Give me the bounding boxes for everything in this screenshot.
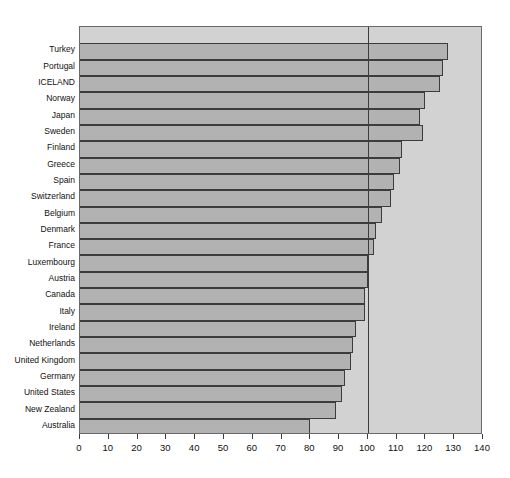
category-label: Switzerland <box>31 192 75 201</box>
x-tick-label: 90 <box>333 443 344 453</box>
category-label: Canada <box>45 290 75 299</box>
category-label: United Kingdom <box>15 356 75 365</box>
x-axis-ticks <box>0 434 510 442</box>
category-label: New Zealand <box>25 405 75 414</box>
axis-tick <box>108 434 109 439</box>
x-tick-label: 110 <box>388 443 403 453</box>
axis-tick <box>309 434 310 439</box>
x-axis-tick-labels: 0102030405060708090100110120130140 <box>0 443 510 459</box>
category-label: Australia <box>42 421 75 430</box>
category-label: Japan <box>52 111 75 120</box>
x-tick-label: 60 <box>246 443 257 453</box>
x-tick-label: 120 <box>416 443 432 453</box>
category-label: Italy <box>59 307 75 316</box>
axis-tick <box>165 434 166 439</box>
category-label: Germany <box>40 372 75 381</box>
category-label: Luxembourg <box>28 258 75 267</box>
bar-chart: TurkeyPortugalICELANDNorwayJapanSwedenFi… <box>0 0 510 478</box>
axis-tick <box>194 434 195 439</box>
x-tick-label: 70 <box>275 443 286 453</box>
axis-tick <box>424 434 425 439</box>
category-label: Spain <box>53 176 75 185</box>
x-tick-label: 0 <box>76 443 81 453</box>
x-tick-label: 140 <box>474 443 490 453</box>
category-label: Austria <box>49 274 75 283</box>
x-tick-label: 100 <box>359 443 375 453</box>
category-label: France <box>49 241 75 250</box>
category-label: Sweden <box>44 127 75 136</box>
category-label: Belgium <box>44 209 75 218</box>
x-tick-label: 30 <box>160 443 171 453</box>
axis-tick <box>338 434 339 439</box>
category-axis-labels: TurkeyPortugalICELANDNorwayJapanSwedenFi… <box>0 26 510 434</box>
category-label: Turkey <box>49 45 75 54</box>
axis-tick <box>396 434 397 439</box>
category-label: Ireland <box>49 323 75 332</box>
category-label: Finland <box>47 143 75 152</box>
axis-tick <box>453 434 454 439</box>
axis-tick <box>281 434 282 439</box>
category-label: Norway <box>46 94 75 103</box>
x-tick-label: 80 <box>304 443 315 453</box>
category-label: United States <box>24 388 75 397</box>
axis-tick <box>79 434 80 439</box>
axis-tick <box>482 434 483 439</box>
x-tick-label: 50 <box>218 443 229 453</box>
category-label: Denmark <box>41 225 75 234</box>
x-tick-label: 10 <box>102 443 113 453</box>
category-label: Portugal <box>43 62 75 71</box>
category-label: ICELAND <box>38 78 75 87</box>
x-tick-label: 130 <box>445 443 461 453</box>
x-tick-label: 20 <box>131 443 142 453</box>
category-label: Greece <box>47 160 75 169</box>
category-label: Netherlands <box>29 339 75 348</box>
x-tick-label: 40 <box>189 443 200 453</box>
axis-tick <box>137 434 138 439</box>
axis-tick <box>367 434 368 439</box>
axis-tick <box>252 434 253 439</box>
axis-tick <box>223 434 224 439</box>
